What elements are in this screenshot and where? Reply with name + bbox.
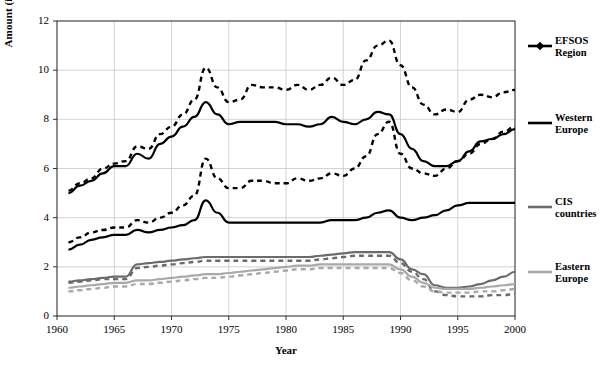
legend-label: CIScountries xyxy=(555,196,613,219)
x-tick-label: 2000 xyxy=(492,324,538,335)
legend-label-line1: Eastern xyxy=(555,261,613,273)
legend-label-line2: Europe xyxy=(555,273,613,285)
legend-label-line2: Europe xyxy=(555,124,613,136)
x-tick-label: 1965 xyxy=(91,324,137,335)
x-tick-label: 1990 xyxy=(378,324,424,335)
y-tick-label: 10 xyxy=(21,64,49,75)
legend-label-line1: EFSOS xyxy=(555,35,613,47)
series-line xyxy=(68,252,515,288)
y-tick-label: 4 xyxy=(21,212,49,223)
x-axis-title: Year xyxy=(57,344,515,356)
x-tick-label: 1970 xyxy=(149,324,195,335)
x-tick-label: 1960 xyxy=(34,324,80,335)
legend-label: WesternEurope xyxy=(555,112,613,135)
x-tick-label: 1980 xyxy=(263,324,309,335)
legend-label: EFSOSRegion xyxy=(555,35,613,58)
y-axis-title: Amount (in million cubic metres) xyxy=(2,0,14,68)
legend-color-swatch xyxy=(528,117,552,129)
legend-label-line1: CIS xyxy=(555,196,613,208)
legend-color-swatch xyxy=(528,266,552,278)
x-tick-label: 1975 xyxy=(206,324,252,335)
y-axis-title-text: Amount (in million cubic metres) xyxy=(2,0,14,47)
series-line xyxy=(68,256,515,297)
legend-label-line2: countries xyxy=(555,208,613,220)
legend-label-line1: Western xyxy=(555,112,613,124)
series-line xyxy=(68,122,515,242)
series-line xyxy=(68,200,515,249)
plot-area xyxy=(0,0,613,368)
x-tick-label: 1995 xyxy=(435,324,481,335)
gridlines xyxy=(57,21,515,316)
legend-label-line2: Region xyxy=(555,47,613,59)
chart-figure: Amount (in million cubic metres) Year 02… xyxy=(0,0,613,368)
legend-color-swatch xyxy=(528,201,552,213)
y-tick-label: 0 xyxy=(21,310,49,321)
y-tick-label: 2 xyxy=(21,261,49,272)
legend-label: EasternEurope xyxy=(555,261,613,284)
y-tick-label: 8 xyxy=(21,113,49,124)
y-tick-label: 12 xyxy=(21,15,49,26)
legend-color-swatch xyxy=(528,40,552,52)
y-tick-label: 6 xyxy=(21,163,49,174)
plot-frame xyxy=(53,21,515,320)
x-tick-label: 1985 xyxy=(320,324,366,335)
